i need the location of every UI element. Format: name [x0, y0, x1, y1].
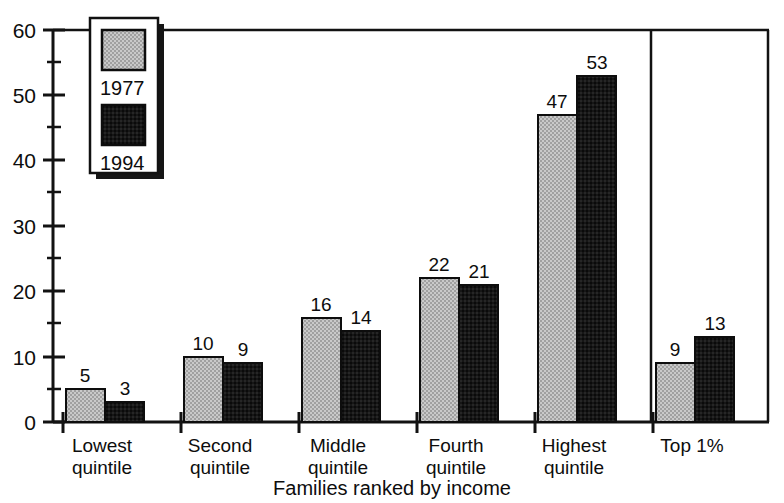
x-label-top1pct-line1: Top 1% [660, 435, 723, 456]
legend-swatch-1977 [102, 30, 145, 70]
bar-1994-highest-quintile [577, 76, 616, 422]
value-label-1977-4: 47 [546, 91, 567, 112]
bar-1977-middle-quintile [302, 318, 341, 422]
bar-group-highest-quintile: 47 53 [538, 52, 616, 422]
value-label-1977-3: 22 [428, 254, 449, 275]
x-label-middle-line2: quintile [308, 457, 368, 478]
legend-swatch-1994 [102, 105, 145, 145]
bar-1994-fourth-quintile [459, 285, 498, 422]
y-tick-label-50: 50 [13, 84, 36, 107]
value-label-1994-3: 21 [468, 261, 489, 282]
y-tick-label-40: 40 [13, 149, 36, 172]
x-label-second-line2: quintile [190, 457, 250, 478]
legend-label-1994: 1994 [100, 152, 145, 174]
x-label-middle-line1: Middle [310, 435, 366, 456]
x-label-second-line1: Second [188, 435, 252, 456]
y-tick-label-30: 30 [13, 215, 36, 238]
x-label-fourth-line2: quintile [426, 457, 486, 478]
bar-group-fourth-quintile: 22 21 [420, 254, 498, 422]
legend-label-1977: 1977 [100, 77, 145, 99]
bar-1977-top-1-percent [656, 363, 695, 422]
bar-chart-figure: 60 50 40 30 20 10 0 5 3 [0, 0, 784, 503]
bar-1977-lowest-quintile [66, 389, 105, 422]
bar-1977-fourth-quintile [420, 278, 459, 422]
x-axis-title: Families ranked by income [273, 477, 511, 499]
bar-1994-lowest-quintile [105, 402, 144, 422]
x-label-lowest-line2: quintile [72, 457, 132, 478]
chart-legend: 1977 1994 [90, 18, 164, 179]
value-label-1994-0: 3 [120, 378, 131, 399]
value-label-1977-1: 10 [192, 333, 213, 354]
value-label-1994-5: 13 [704, 313, 725, 334]
y-tick-label-20: 20 [13, 280, 36, 303]
value-label-1977-0: 5 [80, 365, 91, 386]
value-label-1994-2: 14 [350, 307, 372, 328]
value-label-1994-4: 53 [586, 52, 607, 73]
chart-canvas: 60 50 40 30 20 10 0 5 3 [0, 0, 784, 503]
x-label-lowest-line1: Lowest [72, 435, 133, 456]
x-label-highest-line1: Highest [542, 435, 607, 456]
x-label-highest-line2: quintile [544, 457, 604, 478]
value-label-1994-1: 9 [238, 339, 249, 360]
bar-1994-top-1-percent [695, 337, 734, 422]
value-label-1977-5: 9 [670, 339, 681, 360]
y-tick-label-0: 0 [24, 411, 36, 434]
bar-1994-middle-quintile [341, 331, 380, 422]
x-label-fourth-line1: Fourth [429, 435, 484, 456]
value-label-1977-2: 16 [310, 294, 331, 315]
bar-1994-second-quintile [223, 363, 262, 422]
bar-1977-second-quintile [184, 357, 223, 422]
y-tick-label-60: 60 [13, 19, 36, 42]
bar-1977-highest-quintile [538, 115, 577, 422]
y-tick-label-10: 10 [13, 346, 36, 369]
